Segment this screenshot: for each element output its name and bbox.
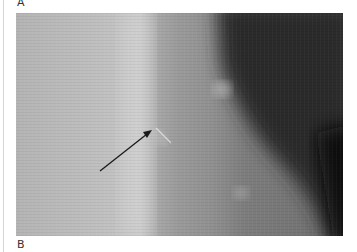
radiograph-image [16, 13, 343, 236]
panel-label-a: A [17, 0, 25, 8]
page-edge-divider [3, 0, 4, 252]
panel-label-b: B [17, 239, 25, 250]
arrow-icon [16, 13, 343, 236]
